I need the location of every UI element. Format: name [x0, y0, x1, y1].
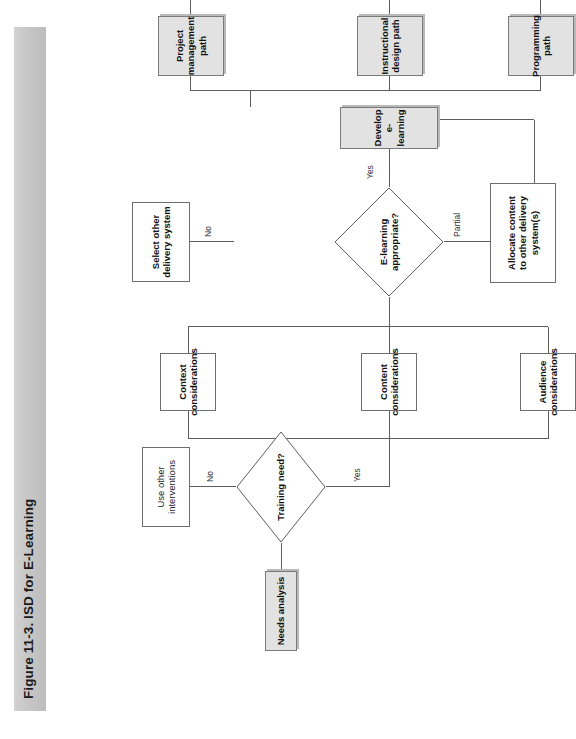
node-allocate-content[interactable]: Allocate content to other delivery syste…: [490, 183, 556, 283]
node-project-management-path-label: Project management path: [174, 17, 208, 76]
connector-allocate-out: [534, 120, 535, 183]
connector-id-exit: [389, 0, 390, 16]
connector-paths-bus: [250, 90, 540, 91]
connector-considerations-merge: [188, 326, 548, 327]
node-audience-considerations-label: Audience considerations: [537, 348, 559, 416]
connector-prog-exit: [540, 0, 541, 16]
connector-develop-to-bus: [250, 91, 251, 107]
node-audience-considerations[interactable]: Audience considerations: [520, 353, 576, 411]
node-select-other-delivery-label: Select other delivery system: [150, 206, 172, 277]
connector-pm-exit: [190, 0, 191, 16]
node-context-considerations[interactable]: Context considerations: [160, 353, 216, 411]
node-develop-elearning-label: Develop e-learning: [372, 108, 406, 148]
node-use-other-interventions[interactable]: Use other interventions: [142, 447, 190, 527]
node-context-considerations-label: Context considerations: [177, 348, 199, 416]
connector-prog-entry: [540, 76, 541, 91]
edge-label-elearning-partial: Partial: [452, 212, 462, 238]
connector-yes-horizontal: [389, 439, 390, 487]
connector-decision-yes-vertical: [326, 486, 389, 487]
node-instructional-design-path-label: Instructional design path: [379, 18, 401, 75]
node-instructional-design-path[interactable]: Instructional design path: [357, 16, 423, 76]
node-elearning-appropriate[interactable]: E-learning appropriate?: [334, 187, 444, 297]
node-training-need[interactable]: Training need?: [236, 431, 326, 543]
connector-allocate-up: [438, 119, 534, 120]
connector-elearning-yes: [389, 149, 390, 187]
node-content-considerations-label: Content considerations: [378, 348, 400, 416]
connector-merge-to-elearning: [389, 297, 390, 327]
connector-elearning-partial-vertical: [444, 241, 490, 242]
connector-elearning-no-vertical: [190, 241, 234, 242]
edge-label-elearning-no: No: [203, 225, 213, 238]
node-select-other-delivery[interactable]: Select other delivery system: [132, 202, 190, 282]
node-programming-path[interactable]: Programming path: [508, 16, 574, 76]
node-content-considerations[interactable]: Content considerations: [361, 353, 417, 411]
edge-label-elearning-yes: Yes: [365, 164, 375, 180]
connector-needs-to-decision: [281, 543, 282, 571]
node-allocate-content-label: Allocate content to other delivery syste…: [506, 196, 540, 270]
connector-id-entry: [389, 76, 390, 91]
connector-pm-entry: [190, 76, 191, 91]
connector-decision-no-vertical: [190, 486, 236, 487]
node-needs-analysis-label: Needs analysis: [275, 577, 286, 646]
edge-label-training-yes: Yes: [352, 467, 362, 483]
edge-label-training-no: No: [205, 470, 215, 483]
node-project-management-path[interactable]: Project management path: [158, 16, 224, 76]
node-programming-path-label: Programming path: [530, 15, 552, 77]
node-use-other-interventions-label: Use other interventions: [155, 460, 177, 514]
figure-title: Figure 11-3. ISD for E-Learning: [21, 499, 36, 699]
node-develop-elearning[interactable]: Develop e-learning: [340, 107, 438, 149]
connector-pm-riser: [190, 90, 250, 91]
node-needs-analysis[interactable]: Needs analysis: [265, 571, 297, 651]
